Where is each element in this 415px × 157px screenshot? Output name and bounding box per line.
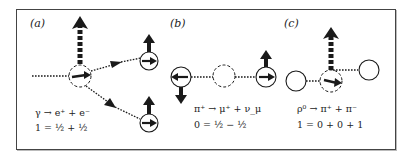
electron-particle	[140, 96, 158, 132]
reaction-c: ρ⁰ → π⁺ + π⁻	[297, 103, 357, 114]
panel-c-label: (c)	[284, 17, 299, 30]
direction-arrow-icon	[110, 61, 122, 68]
spin-equation-b: 0 = ½ − ½	[194, 119, 246, 130]
direction-arrow-icon	[104, 98, 116, 108]
positron-particle	[140, 34, 158, 70]
panel-a: (a)	[30, 16, 158, 133]
spin-equation-c: 1 = 0 + 0 + 1	[297, 119, 363, 130]
pi-plus-particle	[286, 71, 306, 91]
spin-arrow-icon	[72, 75, 86, 77]
pion-circle	[213, 65, 235, 87]
panel-b-label: (b)	[170, 17, 186, 30]
neutrino-particle	[256, 50, 276, 87]
pi-minus-particle	[359, 60, 379, 80]
reaction-a: γ → e⁺ + e⁻	[35, 107, 90, 118]
reaction-b: π⁺ → μ⁺ + ν_μ	[194, 103, 261, 115]
spin-equation-a: 1 = ½ + ½	[35, 122, 87, 133]
panel-c: (c) ρ⁰ → π⁺ + π⁻ 1 = 0 + 0 + 1	[284, 17, 379, 130]
panel-a-label: (a)	[30, 17, 45, 30]
muon-particle	[171, 67, 191, 104]
spin-conservation-diagram: (a)	[0, 0, 415, 157]
panel-b: (b) π⁺ → μ⁺ + ν_μ 0 = ½ − ½	[170, 17, 276, 130]
